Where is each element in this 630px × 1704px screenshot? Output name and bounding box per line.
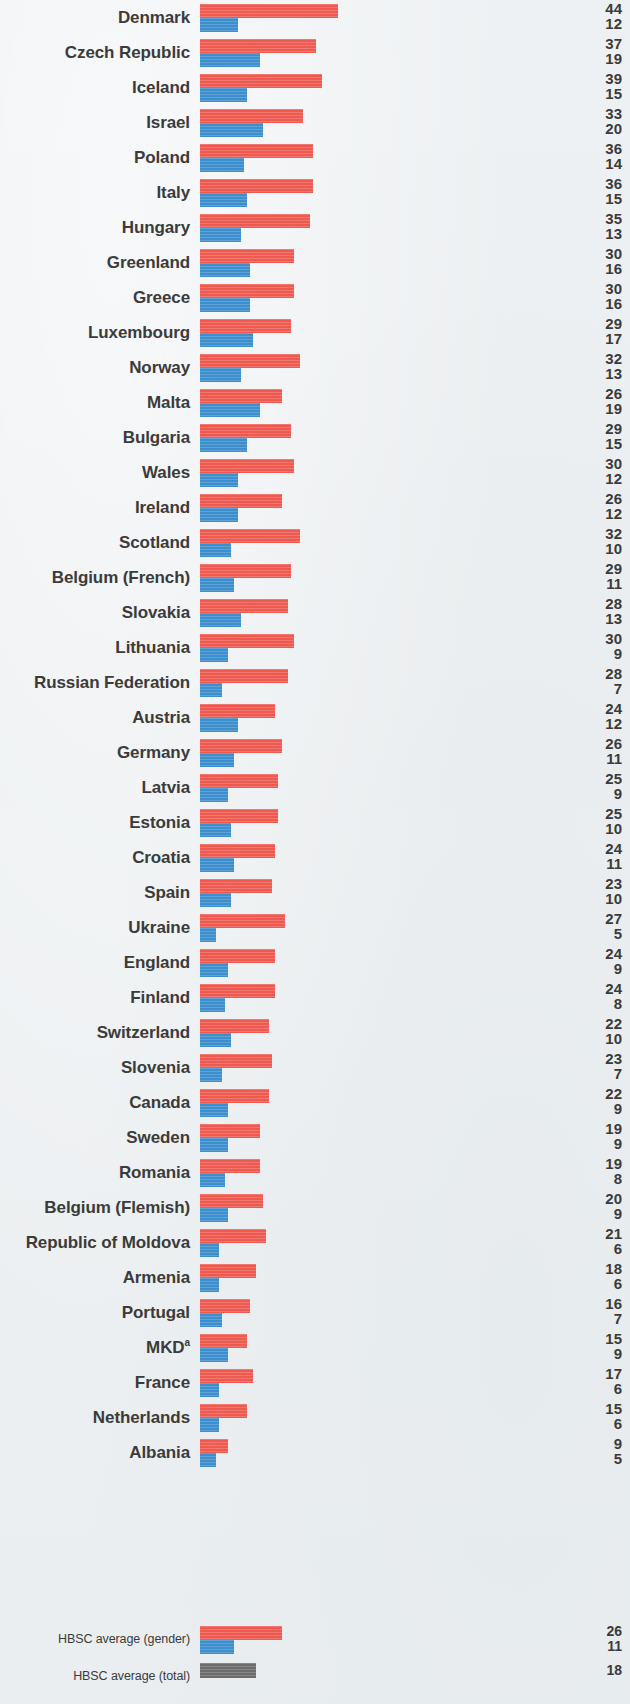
country-label: Romania (119, 1155, 190, 1190)
value-labels: 159 (562, 1330, 622, 1365)
boys-bar (200, 718, 238, 732)
country-row: Estonia2510 (0, 805, 630, 840)
value-labels: 2611 (562, 735, 622, 770)
boys-value: 7 (562, 1066, 622, 1082)
value-labels: 2813 (562, 595, 622, 630)
girls-bar (200, 39, 316, 53)
country-label: Russian Federation (34, 665, 190, 700)
country-row: Belgium (Flemish)209 (0, 1190, 630, 1225)
country-row: Albania95 (0, 1435, 630, 1470)
boys-value: 12 (562, 471, 622, 487)
country-row: Greece3016 (0, 280, 630, 315)
girls-bar (200, 1439, 228, 1453)
country-row: Iceland3915 (0, 70, 630, 105)
country-label: Iceland (132, 70, 190, 105)
country-label: Norway (129, 350, 190, 385)
boys-value: 10 (562, 891, 622, 907)
boys-bar (200, 123, 263, 137)
country-row: Poland3614 (0, 140, 630, 175)
boys-value: 17 (562, 331, 622, 347)
value-labels: 2619 (562, 385, 622, 420)
country-row: MKDa159 (0, 1330, 630, 1365)
country-label: Hungary (122, 210, 190, 245)
boys-bar (200, 1138, 228, 1152)
boys-bar (200, 298, 250, 312)
boys-value: 6 (562, 1276, 622, 1292)
boys-bar (200, 928, 216, 942)
girls-bar (200, 249, 294, 263)
country-row: Luxembourg2917 (0, 315, 630, 350)
value-labels: 229 (562, 1085, 622, 1120)
boys-bar (200, 788, 228, 802)
boys-value: 9 (562, 1136, 622, 1152)
value-labels: 3012 (562, 455, 622, 490)
boys-bar (200, 963, 228, 977)
country-label: Belgium (Flemish) (44, 1190, 190, 1225)
girls-bar (200, 214, 310, 228)
boys-value: 12 (562, 716, 622, 732)
footnote-marker: a (185, 1337, 190, 1348)
country-label: Estonia (129, 805, 190, 840)
boys-value: 8 (562, 1171, 622, 1187)
boys-bar (200, 1313, 222, 1327)
girls-bar (200, 879, 272, 893)
country-row: Lithuania309 (0, 630, 630, 665)
boys-bar (200, 158, 244, 172)
girls-bar (200, 424, 291, 438)
boys-bar (200, 403, 260, 417)
girls-value: 17 (562, 1366, 622, 1382)
country-row: Sweden199 (0, 1120, 630, 1155)
girls-bar (200, 284, 294, 298)
value-labels: 176 (562, 1365, 622, 1400)
value-labels: 3614 (562, 140, 622, 175)
country-row: Scotland3210 (0, 525, 630, 560)
boys-bar (200, 683, 222, 697)
boys-bar (200, 1348, 228, 1362)
girls-bar (200, 669, 288, 683)
value-labels: 209 (562, 1190, 622, 1225)
boys-value: 7 (562, 681, 622, 697)
girls-bar (200, 1159, 260, 1173)
girls-bar (200, 494, 282, 508)
country-label: England (124, 945, 190, 980)
country-label: Lithuania (115, 630, 190, 665)
boys-value: 16 (562, 296, 622, 312)
country-label: Portugal (122, 1295, 190, 1330)
country-label: Republic of Moldova (26, 1225, 190, 1260)
value-labels: 18 (562, 1659, 622, 1694)
girls-bar (200, 949, 275, 963)
value-labels: 3320 (562, 105, 622, 140)
country-label: Ireland (135, 490, 190, 525)
country-label: Denmark (118, 0, 190, 35)
value-labels: 309 (562, 630, 622, 665)
boys-bar (200, 1068, 222, 1082)
boys-value: 6 (562, 1416, 622, 1432)
girls-bar (200, 809, 278, 823)
girls-value: 18 (562, 1261, 622, 1277)
boys-bar (200, 1208, 228, 1222)
girls-bar (200, 529, 300, 543)
boys-bar (200, 578, 234, 592)
boys-bar (200, 823, 231, 837)
boys-value: 12 (562, 506, 622, 522)
boys-value: 19 (562, 401, 622, 417)
value-labels: 2911 (562, 560, 622, 595)
girls-value: 25 (562, 771, 622, 787)
boys-value: 9 (562, 1101, 622, 1117)
girls-bar (200, 109, 303, 123)
country-label: Slovenia (121, 1050, 190, 1085)
girls-bar (200, 4, 338, 18)
boys-bar (200, 1418, 219, 1432)
value-labels: 2411 (562, 840, 622, 875)
boys-bar (200, 858, 234, 872)
girls-bar (200, 704, 275, 718)
boys-bar (200, 438, 247, 452)
country-row: Switzerland2210 (0, 1015, 630, 1050)
value-labels: 199 (562, 1120, 622, 1155)
value-labels: 198 (562, 1155, 622, 1190)
boys-bar (200, 368, 241, 382)
country-label: Luxembourg (88, 315, 190, 350)
boys-bar (200, 1173, 225, 1187)
girls-bar (200, 1264, 256, 1278)
value-labels: 216 (562, 1225, 622, 1260)
